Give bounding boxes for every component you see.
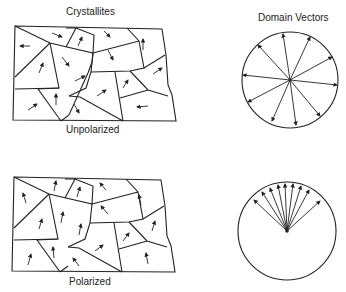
polarized-crystallite-grid (12, 177, 175, 272)
unpolarized-domain-vector-circle (242, 32, 338, 128)
polarized-domain-vector-circle (238, 182, 336, 280)
diagram-canvas (0, 0, 346, 292)
unpolarized-crystallite-grid (13, 26, 176, 121)
